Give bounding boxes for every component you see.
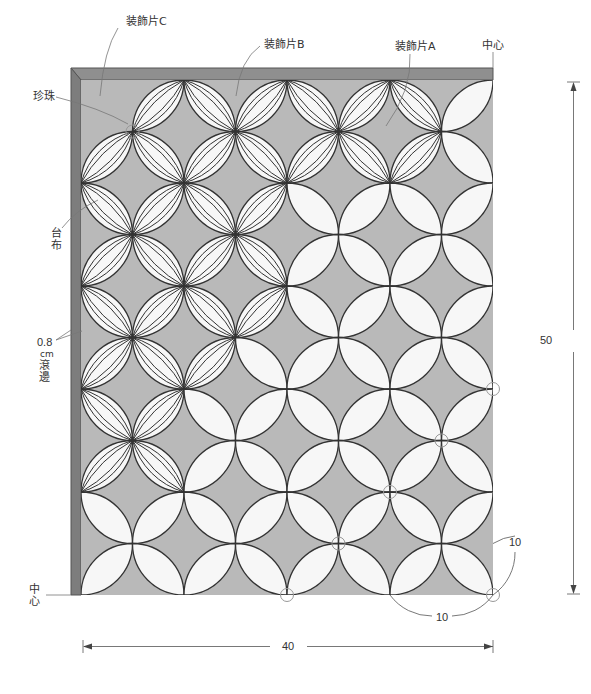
label-base-cloth-text: 台布	[50, 228, 62, 251]
arrow-up-icon	[571, 82, 577, 91]
dimension-width-value: 40	[282, 641, 294, 652]
label-piece-c: 装飾片C	[126, 16, 167, 27]
arrow-right-icon	[484, 644, 493, 650]
label-center-left-text: 中心	[28, 584, 40, 607]
label-binding-text: 滾邊	[38, 360, 50, 383]
dimension-height-value: 50	[540, 335, 552, 346]
arrow-left-icon	[83, 644, 92, 650]
shippo-pattern-drawing	[0, 0, 591, 694]
label-center-left: 中心	[28, 584, 42, 607]
dimension-unit-width-value: 10	[436, 612, 448, 623]
label-center-top: 中心	[482, 40, 504, 51]
binding-top	[71, 68, 493, 80]
dimension-unit-height-value: 10	[509, 537, 521, 548]
label-piece-a: 装飾片A	[395, 41, 436, 52]
arrow-down-icon	[571, 585, 577, 594]
label-base-cloth: 台布	[50, 228, 64, 251]
dimension-height-line	[567, 82, 580, 594]
quilt-diagram: 装飾片C 装飾片B 装飾片A 中心 珍珠 台布 0.8 cm 滾邊 中心 50 …	[0, 0, 591, 694]
label-binding-width: 0.8	[37, 337, 52, 348]
label-binding-unit: cm	[40, 350, 54, 359]
label-binding: 滾邊	[38, 360, 52, 383]
label-piece-b: 装飾片B	[264, 39, 305, 50]
label-pearl: 珍珠	[33, 91, 55, 102]
